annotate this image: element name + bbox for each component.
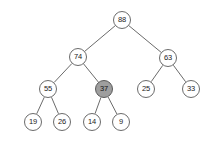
- tree-node-label: 74: [74, 53, 82, 61]
- tree-node-label: 88: [118, 16, 126, 24]
- tree-edge: [84, 64, 99, 82]
- tree-edge: [85, 26, 115, 51]
- tree-node-label: 26: [58, 118, 66, 126]
- tree-edge: [95, 97, 101, 113]
- tree-edge: [173, 65, 185, 82]
- tree-edge: [108, 97, 117, 114]
- tree-node-33[interactable]: 33: [182, 80, 200, 98]
- tree-node-label: 37: [100, 85, 108, 93]
- tree-node-label: 25: [142, 85, 150, 93]
- tree-node-26[interactable]: 26: [53, 113, 71, 131]
- tree-edge: [129, 26, 161, 53]
- tree-edge: [52, 97, 59, 113]
- tree-edge: [54, 64, 72, 83]
- tree-edge: [151, 65, 163, 81]
- tree-node-25[interactable]: 25: [137, 80, 155, 98]
- tree-node-37[interactable]: 37: [95, 80, 113, 98]
- tree-node-19[interactable]: 19: [24, 113, 42, 131]
- tree-node-label: 55: [44, 85, 52, 93]
- tree-node-88[interactable]: 88: [113, 11, 131, 29]
- tree-node-14[interactable]: 14: [83, 113, 101, 131]
- tree-node-label: 9: [119, 118, 123, 126]
- tree-node-63[interactable]: 63: [159, 49, 177, 67]
- tree-node-9[interactable]: 9: [112, 113, 130, 131]
- tree-node-label: 33: [187, 85, 195, 93]
- tree-node-label: 63: [164, 54, 172, 62]
- tree-node-74[interactable]: 74: [69, 48, 87, 66]
- tree-edge: [37, 97, 45, 114]
- binary-tree-diagram: 887463553725331926149: [0, 0, 215, 146]
- tree-node-label: 14: [88, 118, 96, 126]
- tree-node-55[interactable]: 55: [39, 80, 57, 98]
- tree-node-label: 19: [29, 118, 37, 126]
